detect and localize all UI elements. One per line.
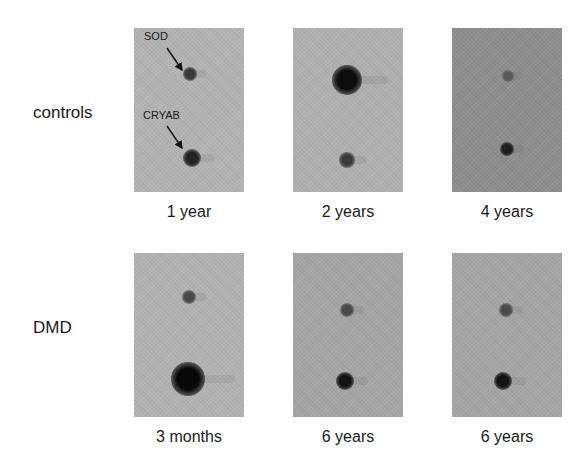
sod-arrow-icon xyxy=(0,0,584,460)
cryab-annotation: CRYAB xyxy=(143,109,180,121)
